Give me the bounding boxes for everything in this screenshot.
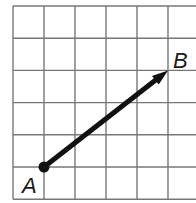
label-point-b: B <box>173 48 188 73</box>
label-point-a: A <box>20 173 37 198</box>
vector-ab <box>39 70 169 172</box>
vector-diagram: A B <box>0 0 196 203</box>
vector-shaft <box>44 79 157 167</box>
point-a-dot <box>39 162 50 173</box>
